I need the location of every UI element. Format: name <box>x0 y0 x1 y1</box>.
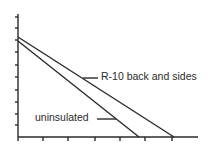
uninsulated-annotation: uninsulated <box>35 111 89 123</box>
r10-annotation: R-10 back and sides <box>101 70 197 82</box>
